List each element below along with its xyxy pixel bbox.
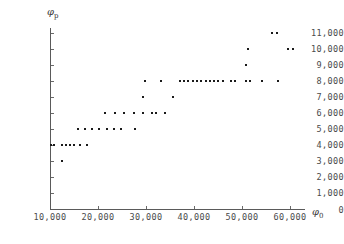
y-tick-label: 2,000: [298, 172, 344, 182]
data-point: [123, 112, 125, 114]
data-point: [155, 112, 157, 114]
data-point: [106, 128, 108, 130]
y-tick: [51, 129, 54, 130]
x-tick: [290, 206, 291, 209]
data-point: [160, 80, 162, 82]
y-tick-label: 3,000: [298, 156, 344, 166]
y-tick: [51, 81, 54, 82]
data-point: [120, 128, 122, 130]
data-point: [113, 128, 115, 130]
data-point: [142, 96, 144, 98]
y-tick-label: 11,000: [298, 28, 344, 38]
data-point: [209, 80, 211, 82]
y-tick-label: 4,000: [298, 140, 344, 150]
y-tick: [51, 177, 54, 178]
y-axis-line: [50, 28, 51, 210]
data-point: [114, 112, 116, 114]
data-point: [142, 112, 144, 114]
data-point: [230, 80, 232, 82]
data-point: [249, 80, 251, 82]
x-tick: [146, 206, 147, 209]
data-point: [179, 80, 181, 82]
y-tick-label: 8,000: [298, 76, 344, 86]
data-point: [183, 80, 185, 82]
data-point: [65, 144, 67, 146]
data-point: [245, 64, 247, 66]
data-point: [151, 112, 153, 114]
y-tick: [51, 113, 54, 114]
data-point: [53, 144, 55, 146]
x-axis-line: [50, 209, 305, 210]
data-point: [261, 80, 263, 82]
data-point: [104, 112, 106, 114]
data-point: [73, 144, 75, 146]
y-axis-title: φp: [47, 6, 59, 20]
data-point: [271, 32, 273, 34]
scatter-plot: φp φ0 01,0002,0003,0004,0005,0006,0007,0…: [0, 0, 344, 244]
data-point: [61, 160, 63, 162]
y-tick: [51, 97, 54, 98]
y-tick-label: 7,000: [298, 92, 344, 102]
y-tick: [51, 193, 54, 194]
x-tick: [194, 206, 195, 209]
data-point: [200, 80, 202, 82]
data-point: [164, 112, 166, 114]
y-tick: [51, 49, 54, 50]
data-point: [287, 48, 289, 50]
data-point: [234, 80, 236, 82]
data-point: [172, 96, 174, 98]
x-tick: [98, 206, 99, 209]
y-tick-label: 10,000: [298, 44, 344, 54]
y-tick: [51, 33, 54, 34]
data-point: [98, 128, 100, 130]
x-tick-label: 60,000: [260, 212, 320, 222]
y-tick-label: 9,000: [298, 60, 344, 70]
y-tick: [51, 65, 54, 66]
data-point: [61, 144, 63, 146]
data-point: [144, 80, 146, 82]
data-point: [79, 144, 81, 146]
x-tick: [242, 206, 243, 209]
data-point: [217, 80, 219, 82]
y-tick-label: 1,000: [298, 188, 344, 198]
data-point: [86, 144, 88, 146]
data-point: [77, 128, 79, 130]
data-point: [213, 80, 215, 82]
data-point: [277, 80, 279, 82]
data-point: [247, 48, 249, 50]
y-tick: [51, 161, 54, 162]
data-point: [133, 112, 135, 114]
data-point: [292, 48, 294, 50]
data-point: [276, 32, 278, 34]
data-point: [69, 144, 71, 146]
y-tick-label: 6,000: [298, 108, 344, 118]
data-point: [187, 80, 189, 82]
data-point: [91, 128, 93, 130]
data-point: [222, 80, 224, 82]
data-point: [192, 80, 194, 82]
data-point: [245, 80, 247, 82]
data-point: [134, 128, 136, 130]
data-point: [84, 128, 86, 130]
y-tick-label: 5,000: [298, 124, 344, 134]
data-point: [205, 80, 207, 82]
data-point: [50, 144, 52, 146]
data-point: [196, 80, 198, 82]
